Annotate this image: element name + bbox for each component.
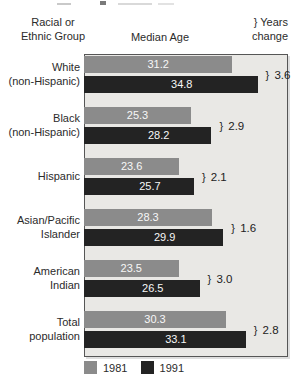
bar-1981-asian-pacific-islander: 28.3 [84,209,212,226]
change-value: 2.1 [208,171,227,183]
bar-value-label: 26.5 [84,280,200,297]
legend-label-1991: 1991 [160,362,184,374]
category-label: Totalpopulation [0,315,80,344]
category-label: AmericanIndian [0,264,80,293]
column-header-line: Racial or [6,15,100,29]
bar-1981-american-indian: 23.5 [84,260,179,277]
legend: 1981 1991 [84,361,194,374]
column-header-median-age: Median Age [118,30,202,44]
category-label: Black(non-Hispanic) [0,111,80,140]
brace-icon: } [266,69,270,81]
bar-1991-american-indian: 26.5 [84,280,200,297]
brace-icon: } [219,120,223,132]
column-header-line: change [252,29,288,43]
bar-value-label: 28.3 [84,209,212,226]
legend-label-1981: 1981 [103,362,127,374]
bar-1991-asian-pacific-islander: 29.9 [84,229,223,246]
category-label: White(non-Hispanic) [0,60,80,89]
category-label: Asian/PacificIslander [0,213,80,242]
bar-1991-total-population: 33.1 [84,331,246,348]
bar-value-label: 33.1 [84,331,246,348]
years-change-label: } 2.1 [202,170,227,184]
brace-icon: } [231,222,235,234]
column-header-racial-ethnic-group: Racial or Ethnic Group [6,15,100,43]
legend-swatch-1981 [84,361,97,374]
bar-value-label: 34.8 [84,76,258,93]
bar-1981-total-population: 30.3 [84,311,226,328]
years-change-label: } 3.0 [208,272,233,286]
column-header-line: } Years [252,15,288,29]
bar-value-label: 23.5 [84,260,179,277]
column-header-years-change: } Years change [252,15,288,43]
bar-1991-hispanic: 25.7 [84,178,194,195]
legend-swatch-1991 [141,361,154,374]
years-change-label: } 3.6 [266,68,291,82]
change-value: 3.6 [271,69,290,81]
median-age-bar-chart-figure: Racial or Ethnic Group Median Age } Year… [0,0,303,383]
change-value: 2.9 [225,120,244,132]
bar-1981-hispanic: 23.6 [84,158,179,175]
legend-item-1981: 1981 [84,362,131,374]
years-change-label: } 2.8 [254,323,279,337]
change-value: 1.6 [237,222,256,234]
bar-value-label: 25.3 [84,107,191,124]
years-change-label: } 2.9 [219,119,244,133]
bar-1991-black-non-hispanic-: 28.2 [84,127,211,144]
bar-value-label: 25.7 [84,178,194,195]
legend-item-1991: 1991 [141,362,184,374]
bar-value-label: 31.2 [84,56,232,73]
change-value: 2.8 [259,324,278,336]
change-value: 3.0 [213,273,232,285]
years-change-label: } 1.6 [231,221,256,235]
bar-1981-white-non-hispanic-: 31.2 [84,56,232,73]
bar-1981-black-non-hispanic-: 25.3 [84,107,191,124]
bar-value-label: 23.6 [84,158,179,175]
bar-value-label: 30.3 [84,311,226,328]
brace-icon: } [254,324,258,336]
category-label: Hispanic [0,169,80,184]
brace-icon: } [202,171,206,183]
bar-value-label: 28.2 [84,127,211,144]
column-header-line: Ethnic Group [6,29,100,43]
bar-1991-white-non-hispanic-: 34.8 [84,76,258,93]
bar-value-label: 29.9 [84,229,223,246]
brace-icon: } [208,273,212,285]
